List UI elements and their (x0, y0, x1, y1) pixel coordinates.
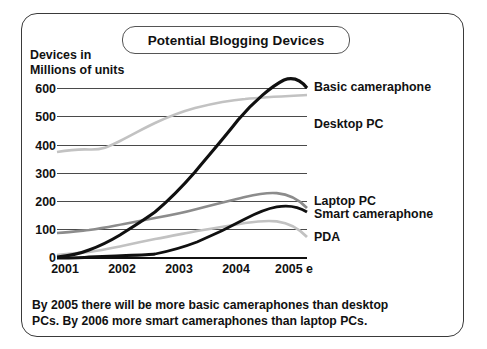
series-label-smart-cameraphone: Smart cameraphone (314, 207, 433, 221)
chart-caption-line2: PCs. By 2006 more smart cameraphones tha… (32, 314, 442, 330)
series-line-pda (57, 221, 307, 255)
chart-caption: By 2005 there will be more basic camerap… (32, 298, 442, 329)
chart-caption-line1: By 2005 there will be more basic camerap… (32, 298, 442, 314)
series-label-desktop-pc: Desktop PC (314, 117, 384, 131)
series-line-laptop-pc (57, 193, 307, 233)
series-label-laptop-pc: Laptop PC (314, 194, 376, 208)
series-label-pda: PDA (314, 230, 340, 244)
series-label-basic-cameraphone: Basic cameraphone (314, 80, 431, 94)
series-line-desktop-pc (57, 95, 307, 152)
chart-image: Potential Blogging Devices Devices in Mi… (0, 0, 487, 349)
chart-plot-area (0, 0, 487, 349)
